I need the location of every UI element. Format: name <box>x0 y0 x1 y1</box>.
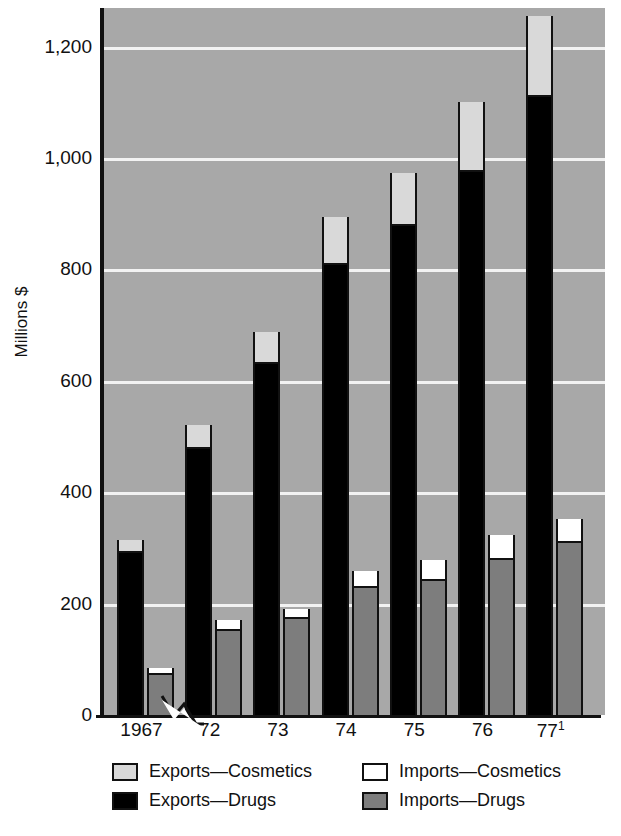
x-axis-tick-label-text: 77 <box>537 720 558 741</box>
bar-segment-imports-cosmetics <box>558 519 581 544</box>
bar-segment-imports-drugs <box>354 588 377 715</box>
bar-segment-exports-cosmetics <box>392 173 415 226</box>
y-axis-tick-label: 600 <box>14 371 92 390</box>
x-axis-tick-label-text: 76 <box>472 719 493 740</box>
bar-exports-73 <box>253 332 280 715</box>
bar-segment-exports-drugs <box>119 553 142 715</box>
bar-segment-imports-cosmetics <box>285 609 308 619</box>
bar-segment-imports-cosmetics <box>354 571 377 588</box>
bar-segment-exports-cosmetics <box>324 217 347 265</box>
bar-exports-76 <box>458 102 485 715</box>
x-axis-tick-label-footnote: 1 <box>558 719 565 733</box>
bar-chart: Millions $ 1,2001,0008006004002000 19677… <box>0 0 621 836</box>
bar-imports-77 <box>556 519 583 715</box>
x-axis-tick-label-text: 1967 <box>120 719 162 740</box>
plot-area <box>100 8 605 715</box>
y-axis-tick-label: 1,000 <box>14 148 92 167</box>
bar-exports-77 <box>526 16 553 715</box>
legend-item[interactable]: Exports—Cosmetics <box>112 757 312 786</box>
legend-item[interactable]: Exports—Drugs <box>112 786 312 815</box>
legend-item[interactable]: Imports—Cosmetics <box>362 757 561 786</box>
bar-segment-exports-cosmetics <box>460 102 483 172</box>
bar-segment-exports-drugs <box>460 172 483 715</box>
legend-item[interactable]: Imports—Drugs <box>362 786 561 815</box>
bar-segment-exports-drugs <box>255 364 278 715</box>
bar-segment-exports-cosmetics <box>119 540 142 554</box>
bar-exports-72 <box>185 425 212 715</box>
x-axis-tick-label-text: 75 <box>404 719 425 740</box>
bar-segment-exports-drugs <box>528 97 551 715</box>
legend-label: Imports—Cosmetics <box>399 761 561 782</box>
bar-segment-exports-drugs <box>392 226 415 715</box>
bar-imports-72 <box>215 620 242 715</box>
y-axis-tick-label: 400 <box>14 482 92 501</box>
legend-swatch-exp-drug <box>112 792 138 810</box>
y-axis-tick-label: 200 <box>14 594 92 613</box>
bar-segment-exports-drugs <box>187 449 210 715</box>
legend-label: Imports—Drugs <box>399 790 525 811</box>
bar-segment-imports-drugs <box>285 619 308 715</box>
bar-segment-imports-cosmetics <box>217 620 240 631</box>
x-axis-tick-label: 771 <box>511 720 591 742</box>
legend-column-exports: Exports—CosmeticsExports—Drugs <box>112 757 312 815</box>
y-axis-tick-label: 0 <box>14 705 92 724</box>
bar-segment-imports-cosmetics <box>422 560 445 581</box>
x-axis-tick-label-text: 72 <box>199 719 220 740</box>
bar-segment-imports-cosmetics <box>490 535 513 560</box>
bar-imports-75 <box>420 560 447 715</box>
bar-imports-74 <box>352 571 379 715</box>
bar-segment-imports-cosmetics <box>149 668 172 675</box>
y-axis-tick-label: 800 <box>14 259 92 278</box>
y-axis-tick-label: 1,200 <box>14 37 92 56</box>
x-axis-tick-label-text: 73 <box>267 719 288 740</box>
bar-segment-exports-drugs <box>324 265 347 715</box>
x-axis-tick-label-text: 74 <box>336 719 357 740</box>
chart-legend: Exports—CosmeticsExports—Drugs Imports—C… <box>100 757 605 819</box>
legend-swatch-imp-cos <box>362 763 388 781</box>
y-axis-tick-labels: 1,2001,0008006004002000 <box>14 0 92 836</box>
bar-segment-imports-drugs <box>422 581 445 715</box>
bar-exports-75 <box>390 173 417 715</box>
bar-segment-exports-cosmetics <box>187 425 210 448</box>
legend-swatch-imp-drug <box>362 792 388 810</box>
bar-exports-74 <box>322 217 349 716</box>
legend-label: Exports—Drugs <box>149 790 276 811</box>
bar-imports-76 <box>488 535 515 715</box>
bar-segment-exports-cosmetics <box>255 332 278 364</box>
legend-column-imports: Imports—CosmeticsImports—Drugs <box>362 757 561 815</box>
bar-imports-73 <box>283 609 310 715</box>
legend-swatch-exp-cos <box>112 763 138 781</box>
bar-segment-imports-drugs <box>490 560 513 715</box>
bar-segment-imports-drugs <box>558 543 581 715</box>
legend-label: Exports—Cosmetics <box>149 761 312 782</box>
plot-inner <box>104 8 605 715</box>
bar-segment-imports-drugs <box>217 631 240 715</box>
bar-exports-1967 <box>117 540 144 715</box>
bar-segment-exports-cosmetics <box>528 16 551 97</box>
